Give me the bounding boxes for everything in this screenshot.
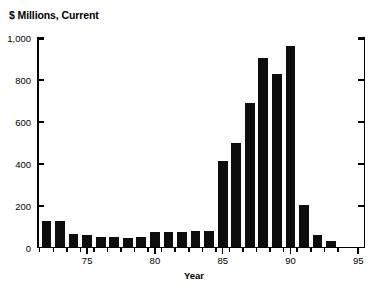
bar bbox=[326, 241, 336, 246]
x-axis-tick-minor bbox=[93, 248, 95, 252]
y-axis-tick-right bbox=[358, 205, 365, 207]
y-axis-tick bbox=[37, 163, 44, 165]
x-axis-tick-minor bbox=[283, 248, 285, 252]
x-axis-tick bbox=[222, 248, 224, 254]
x-axis-tick-minor bbox=[202, 248, 204, 252]
x-axis-tick-minor bbox=[310, 248, 312, 252]
bar bbox=[286, 46, 296, 247]
x-axis-title: Year bbox=[0, 270, 388, 281]
bar bbox=[109, 237, 119, 246]
x-axis-tick-minor bbox=[256, 248, 258, 252]
y-axis-right-line bbox=[364, 38, 366, 248]
bar bbox=[313, 235, 323, 247]
y-axis-tick-right bbox=[358, 79, 365, 81]
x-axis-tick-minor bbox=[147, 248, 149, 252]
plot-area bbox=[37, 38, 365, 248]
x-axis-tick-minor bbox=[215, 248, 217, 252]
x-axis-label: 95 bbox=[353, 255, 364, 266]
bar bbox=[42, 221, 52, 246]
x-axis-labels: 7580859095 bbox=[37, 255, 365, 269]
bar bbox=[245, 103, 255, 247]
y-axis-label: 600 bbox=[0, 117, 31, 128]
bar bbox=[258, 58, 268, 247]
y-axis-tick bbox=[37, 37, 44, 39]
x-axis-label: 90 bbox=[285, 255, 296, 266]
bar bbox=[55, 221, 65, 247]
y-axis-line bbox=[37, 38, 39, 248]
bar-chart: $ Millions, Current 2004006008001,000 0 … bbox=[0, 0, 388, 288]
bar bbox=[96, 237, 106, 246]
y-axis-tick bbox=[37, 121, 44, 123]
bar bbox=[136, 237, 146, 246]
y-axis-label: 1,000 bbox=[0, 33, 31, 44]
y-axis-tick-right bbox=[358, 163, 365, 165]
x-axis-tick bbox=[154, 248, 156, 254]
bar bbox=[204, 231, 214, 247]
x-axis-tick-minor bbox=[161, 248, 163, 252]
x-axis-tick-minor bbox=[134, 248, 136, 252]
bar bbox=[191, 231, 201, 246]
x-axis-tick-minor bbox=[269, 248, 271, 252]
x-axis-label: 85 bbox=[217, 255, 228, 266]
x-axis-tick-minor bbox=[66, 248, 68, 252]
bar bbox=[218, 161, 228, 246]
x-axis-tick-minor bbox=[242, 248, 244, 252]
y-axis-label: 400 bbox=[0, 159, 31, 170]
x-axis-label: 80 bbox=[150, 255, 161, 266]
bar bbox=[69, 234, 79, 246]
x-axis-tick-minor bbox=[296, 248, 298, 252]
x-axis-label: 75 bbox=[82, 255, 93, 266]
chart-title: $ Millions, Current bbox=[9, 9, 99, 21]
bar bbox=[272, 74, 282, 246]
bar bbox=[299, 205, 309, 247]
x-axis-tick bbox=[357, 248, 359, 254]
x-axis-tick-minor bbox=[229, 248, 231, 252]
y-axis-label: 200 bbox=[0, 201, 31, 212]
y-axis-tick bbox=[37, 205, 44, 207]
x-axis-tick-minor bbox=[188, 248, 190, 252]
y-axis-label-zero: 0 bbox=[0, 243, 31, 254]
y-axis-label: 800 bbox=[0, 75, 31, 86]
bar bbox=[150, 232, 160, 246]
bar bbox=[177, 232, 187, 246]
x-axis-tick-minor bbox=[120, 248, 122, 252]
x-axis-tick-minor bbox=[337, 248, 339, 252]
bar bbox=[82, 235, 92, 247]
x-axis-tick-minor bbox=[39, 248, 41, 252]
bar bbox=[231, 143, 241, 247]
bar bbox=[164, 232, 174, 247]
x-axis-tick-minor bbox=[324, 248, 326, 252]
bar bbox=[123, 238, 133, 247]
x-axis-tick-minor bbox=[80, 248, 82, 252]
x-axis-tick bbox=[290, 248, 292, 254]
x-axis-tick-minor bbox=[174, 248, 176, 252]
y-axis-tick-right bbox=[358, 121, 365, 123]
y-axis-tick-right bbox=[358, 37, 365, 39]
x-axis-tick bbox=[86, 248, 88, 254]
x-axis-tick-minor bbox=[107, 248, 109, 252]
x-axis-tick-minor bbox=[53, 248, 55, 252]
y-axis-tick bbox=[37, 79, 44, 81]
